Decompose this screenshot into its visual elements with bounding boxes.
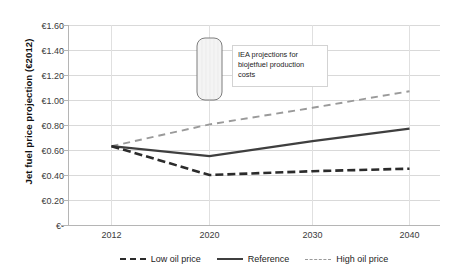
x-tick-2030: 2030 bbox=[283, 230, 343, 240]
legend-swatch-low-oil-price-icon bbox=[120, 258, 146, 260]
annotation-line-3: costs bbox=[238, 70, 323, 80]
y-tick-marks bbox=[62, 26, 68, 226]
legend-label-high-oil-price: High oil price bbox=[336, 254, 388, 264]
jet-fuel-price-chart: Jet fuel price projection (€2012) €1.60 … bbox=[0, 0, 455, 274]
iea-projection-annotation: IEA projections for biojetfuel productio… bbox=[232, 45, 328, 87]
legend-swatch-high-oil-price-icon bbox=[305, 259, 331, 260]
x-tick-2040: 2040 bbox=[380, 230, 440, 240]
annotation-line-1: IEA projections for bbox=[238, 50, 323, 60]
legend-item-reference: Reference bbox=[217, 254, 290, 264]
series-reference bbox=[112, 129, 410, 157]
legend-item-low-oil-price: Low oil price bbox=[120, 254, 201, 264]
series-high-oil-price bbox=[112, 91, 410, 146]
legend-item-high-oil-price: High oil price bbox=[305, 254, 388, 264]
annotation-line-2: biojetfuel production bbox=[238, 60, 323, 70]
x-tick-2012: 2012 bbox=[82, 230, 142, 240]
legend-label-reference: Reference bbox=[248, 254, 290, 264]
legend-label-low-oil-price: Low oil price bbox=[151, 254, 201, 264]
x-tick-2020: 2020 bbox=[180, 230, 240, 240]
legend-swatch-reference-icon bbox=[217, 258, 243, 260]
chart-legend: Low oil price Reference High oil price bbox=[68, 248, 440, 270]
